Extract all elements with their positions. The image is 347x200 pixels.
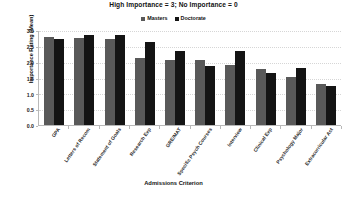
chart-legend: Masters Doctorate — [0, 16, 347, 21]
x-tick-label-wrap: Extracurricular Act — [304, 127, 334, 167]
bar-group — [311, 31, 341, 125]
bar-doctorate — [145, 42, 155, 125]
legend-label-doctorate: Doctorate — [181, 16, 206, 21]
y-tick-label: 2.0 — [5, 60, 34, 66]
legend-label-masters: Masters — [147, 16, 167, 21]
x-tick-label: Psychology Major — [275, 127, 304, 165]
bar-masters — [225, 65, 235, 125]
y-tick-label: 0.0 — [5, 123, 34, 129]
y-tick-label: 3.0 — [5, 28, 34, 34]
bar-group — [190, 31, 220, 125]
plot-area — [38, 31, 341, 126]
x-tick-label-wrap: Clinical Exp — [253, 127, 273, 153]
legend-item-doctorate: Doctorate — [175, 16, 206, 21]
x-tick-label-wrap: Research Exp — [129, 127, 152, 157]
x-tick-label-wrap: Specific Psych Courses — [176, 127, 213, 176]
bar-doctorate — [296, 68, 306, 125]
bar-group — [69, 31, 99, 125]
x-axis-tick-labels: GPALetters of RecomStatement of GoalsRes… — [38, 127, 341, 175]
x-tick-label: Clinical Exp — [253, 127, 273, 153]
x-tick-label-wrap: Statement of Goals — [92, 127, 122, 167]
bar-masters — [316, 84, 326, 125]
chart-figure: High Importance = 3; No Importance = 0 M… — [0, 0, 347, 200]
legend-swatch-masters — [141, 17, 145, 21]
bar-masters — [135, 58, 145, 125]
x-tick-label: Letters of Recom — [64, 127, 92, 163]
x-tick-label: Research Exp — [129, 127, 152, 157]
bar-doctorate — [235, 51, 245, 125]
legend-swatch-doctorate — [175, 17, 179, 21]
bar-group — [99, 31, 129, 125]
x-tick-mark — [341, 126, 342, 129]
bar-doctorate — [54, 39, 64, 125]
bar-group — [220, 31, 250, 125]
bar-masters — [195, 60, 205, 125]
x-tick-label: GPA — [51, 127, 61, 138]
bar-doctorate — [266, 73, 276, 125]
bar-doctorate — [326, 86, 336, 125]
x-tick-label: Extracurricular Act — [304, 127, 334, 167]
bar-masters — [256, 69, 266, 125]
bar-masters — [286, 77, 296, 125]
bar-group — [160, 31, 190, 125]
bar-group — [250, 31, 280, 125]
x-axis-title: Admissions Criterion — [0, 180, 347, 186]
bar-doctorate — [175, 51, 185, 125]
legend-item-masters: Masters — [141, 16, 167, 21]
y-tick-label: 0.5 — [5, 107, 34, 113]
x-tick-label-wrap: Letters of Recom — [64, 127, 92, 163]
bar-group — [39, 31, 69, 125]
x-tick-label: Specific Psych Courses — [176, 127, 213, 176]
bar-doctorate — [205, 66, 215, 125]
x-tick-label-wrap: GRE/MAT — [165, 127, 182, 148]
bar-masters — [165, 60, 175, 125]
x-tick-label-wrap: Psychology Major — [275, 127, 304, 165]
x-tick-label: Interview — [226, 127, 243, 148]
x-tick-label: GRE/MAT — [165, 127, 182, 148]
bar-groups — [39, 31, 341, 125]
bar-group — [130, 31, 160, 125]
x-tick-label-wrap: Interview — [226, 127, 243, 148]
bar-group — [281, 31, 311, 125]
bar-doctorate — [115, 35, 125, 125]
bar-masters — [44, 37, 54, 125]
bar-masters — [105, 39, 115, 125]
y-tick-label: 2.5 — [5, 44, 34, 50]
x-tick-label-wrap: GPA — [51, 127, 61, 138]
y-tick-label: 1.5 — [5, 76, 34, 82]
bar-doctorate — [84, 35, 94, 125]
bar-masters — [74, 38, 84, 125]
x-tick-label: Statement of Goals — [92, 127, 122, 167]
y-tick-label: 1.0 — [5, 92, 34, 98]
chart-title: High Importance = 3; No Importance = 0 — [0, 1, 347, 8]
